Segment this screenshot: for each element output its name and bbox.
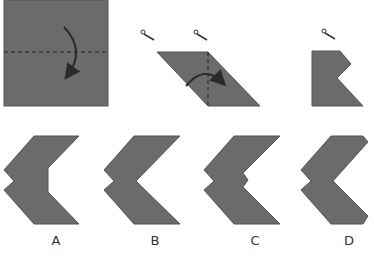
step-1-square	[4, 0, 108, 106]
option-b-label: B	[145, 233, 165, 248]
option-d-shape[interactable]	[301, 136, 368, 224]
option-d-label: D	[339, 233, 359, 248]
scissors-icon	[141, 30, 154, 40]
option-c-shape[interactable]	[204, 136, 280, 224]
option-b-shape[interactable]	[104, 136, 180, 224]
option-a-label: A	[46, 233, 66, 248]
scissors-icon	[194, 30, 207, 40]
option-c-label: C	[245, 233, 265, 248]
step-3-cut-shape	[312, 29, 363, 106]
step-2-parallelogram	[141, 30, 260, 106]
scissors-icon	[322, 29, 335, 39]
option-a-shape[interactable]	[4, 136, 79, 224]
diagram-canvas	[0, 0, 374, 256]
